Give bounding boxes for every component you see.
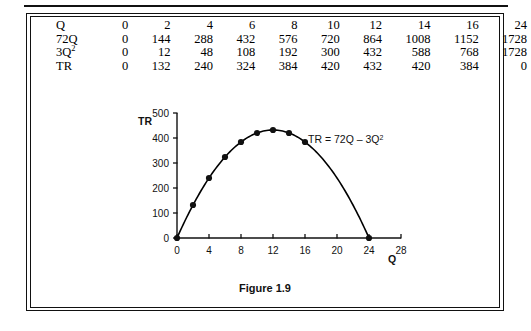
x-tick-label: 16 — [299, 245, 311, 256]
x-axis-label: Q — [388, 253, 396, 265]
table-cell: 324 — [217, 60, 259, 74]
table-cell: 132 — [132, 60, 174, 74]
row-label: 3Q2 — [56, 46, 91, 60]
table-body: Q 0 2 4 6 8 10 12 14 16 24 72Q 0 144 288… — [56, 19, 531, 73]
row-label-exponent: 2 — [71, 44, 75, 53]
table-cell: 432 — [344, 46, 386, 60]
table-cell: 2 — [132, 19, 174, 33]
data-point-marker — [254, 130, 260, 136]
x-axis-tick-labels: 0481216202428 — [174, 245, 407, 256]
table-cell: 420 — [301, 60, 343, 74]
table-cell: 10 — [301, 19, 343, 33]
x-tick-label: 12 — [267, 245, 279, 256]
table-cell: 108 — [217, 46, 259, 60]
row-label-text: 3Q — [56, 45, 71, 59]
y-tick-label: 0 — [163, 233, 169, 244]
y-axis-tick-labels: 0100200300400500 — [152, 108, 169, 244]
table-cell: 0 — [91, 33, 132, 47]
row-label-text: Q — [56, 18, 65, 32]
tr-curve-chart: 0100200300400500 0481216202428 TR Q TR =… — [120, 100, 420, 278]
table-cell: 384 — [434, 60, 482, 74]
table-row: 3Q2 0 12 48 108 192 300 432 588 768 1728 — [56, 46, 531, 60]
equation-annotation-text: TR = 72Q – 3Q — [308, 133, 380, 145]
row-label: Q — [56, 19, 91, 33]
data-table: Q 0 2 4 6 8 10 12 14 16 24 72Q 0 144 288… — [56, 19, 531, 73]
y-tick-label: 100 — [152, 208, 169, 219]
x-tick-label: 20 — [331, 245, 343, 256]
data-point-marker — [366, 235, 372, 241]
table-cell: 588 — [386, 46, 434, 60]
y-tick-label: 200 — [152, 183, 169, 194]
equation-annotation-exponent: 2 — [380, 134, 384, 141]
data-point-marker — [174, 235, 180, 241]
equation-annotation: TR = 72Q – 3Q2 — [308, 133, 384, 145]
row-label: TR — [56, 60, 91, 74]
table-cell: 420 — [386, 60, 434, 74]
table-cell: 432 — [217, 33, 259, 47]
table-cell: 768 — [434, 46, 482, 60]
data-point-marker — [238, 139, 244, 145]
table-cell: 48 — [175, 46, 217, 60]
table-cell: 864 — [344, 33, 386, 47]
x-tick-label: 28 — [395, 245, 407, 256]
x-tick-label: 4 — [206, 245, 212, 256]
table-cell: 0 — [91, 46, 132, 60]
y-tick-label: 300 — [152, 158, 169, 169]
table-cell: 0 — [91, 60, 132, 74]
data-point-marker — [270, 127, 276, 133]
table-cell: 720 — [301, 33, 343, 47]
table-cell: 24 — [483, 19, 531, 33]
table-cell: 240 — [175, 60, 217, 74]
table-cell: 12 — [344, 19, 386, 33]
tr-curve-path — [177, 130, 369, 238]
table-cell: 576 — [259, 33, 301, 47]
table-cell: 1728 — [483, 46, 531, 60]
figure-caption: Figure 1.9 — [30, 282, 500, 294]
table-cell: 144 — [132, 33, 174, 47]
table-cell: 6 — [217, 19, 259, 33]
data-point-marker — [286, 130, 292, 136]
table-cell: 300 — [301, 46, 343, 60]
table-cell: 4 — [175, 19, 217, 33]
table-cell: 8 — [259, 19, 301, 33]
table-row: Q 0 2 4 6 8 10 12 14 16 24 — [56, 19, 531, 33]
y-axis-label: TR — [138, 115, 152, 127]
table-cell: 1728 — [483, 33, 531, 47]
table-cell: 384 — [259, 60, 301, 74]
table-cell: 1008 — [386, 33, 434, 47]
data-point-marker — [206, 175, 212, 181]
table-cell: 1152 — [434, 33, 482, 47]
table-cell: 0 — [483, 60, 531, 74]
x-tick-label: 8 — [238, 245, 244, 256]
table-cell: 192 — [259, 46, 301, 60]
chart-svg: 0100200300400500 0481216202428 TR Q TR =… — [120, 100, 420, 278]
y-tick-label: 500 — [152, 108, 169, 119]
table-row: TR 0 132 240 324 384 420 432 420 384 0 — [56, 60, 531, 74]
top-rule-divider — [24, 5, 508, 7]
row-label-text: TR — [56, 59, 72, 73]
y-tick-label: 400 — [152, 133, 169, 144]
table-cell: 432 — [344, 60, 386, 74]
table-row: 72Q 0 144 288 432 576 720 864 1008 1152 … — [56, 33, 531, 47]
table-cell: 0 — [91, 19, 132, 33]
table-cell: 12 — [132, 46, 174, 60]
table-cell: 16 — [434, 19, 482, 33]
x-tick-label: 24 — [363, 245, 375, 256]
data-point-marker — [222, 154, 228, 160]
table-cell: 14 — [386, 19, 434, 33]
data-point-marker — [190, 202, 196, 208]
x-tick-label: 0 — [174, 245, 180, 256]
table-cell: 288 — [175, 33, 217, 47]
figure-page: Q 0 2 4 6 8 10 12 14 16 24 72Q 0 144 288… — [0, 0, 531, 331]
